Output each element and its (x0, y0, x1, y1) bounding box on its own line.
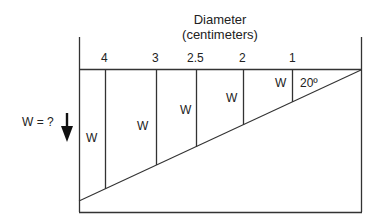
incline (79, 70, 361, 201)
title-line-2: (centimeters) (0, 27, 376, 42)
weight-label-1cm: W (275, 77, 286, 90)
weight-label-2cm: W (226, 92, 237, 105)
unknown-weight-label: W = ? (22, 116, 54, 129)
down-arrow-icon (61, 113, 73, 142)
title-line-1: Diameter (0, 12, 376, 27)
weight-label-4cm: W (86, 132, 97, 145)
weight-label-2-5cm: W (180, 104, 191, 117)
diameter-label-2-5: 2.5 (187, 52, 204, 65)
weight-label-3cm: W (137, 120, 148, 133)
diameter-label-3: 3 (152, 52, 159, 65)
diameter-label-4: 4 (101, 52, 108, 65)
angle-label: 20º (300, 77, 318, 90)
diagram-title: Diameter (centimeters) (0, 12, 376, 42)
diameter-label-2: 2 (239, 52, 246, 65)
diameter-label-1: 1 (289, 52, 296, 65)
